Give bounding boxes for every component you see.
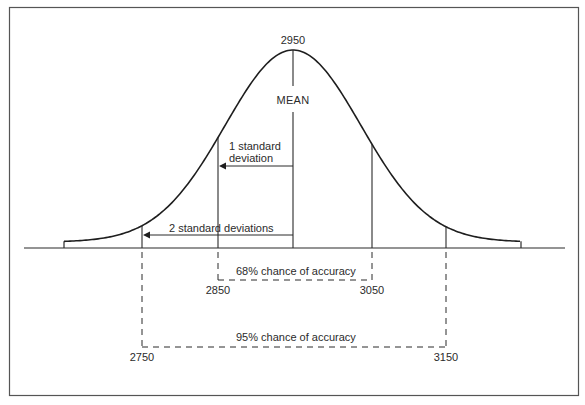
sd2-label: 2 standard deviations: [169, 222, 274, 234]
mean-value-label: 2950: [281, 34, 305, 46]
range-68-high-value: 3050: [360, 284, 384, 296]
sd2-arrow-head-icon: [143, 232, 150, 239]
sd1-arrow-head-icon: [219, 163, 226, 170]
range-95-low-value: 2750: [130, 351, 154, 363]
range-68-label: 68% chance of accuracy: [236, 265, 356, 277]
normal-distribution-diagram: 2950 MEAN 1 standard deviation 2 standar…: [0, 0, 585, 405]
range-95-high-value: 3150: [434, 351, 458, 363]
range-95-label: 95% chance of accuracy: [236, 331, 356, 343]
mean-label: MEAN: [277, 94, 310, 106]
range-68-low-value: 2850: [206, 284, 230, 296]
bell-curve: [64, 50, 520, 241]
sd1-label-line1: 1 standard: [229, 140, 281, 152]
sd1-label-line2: deviation: [229, 152, 273, 164]
